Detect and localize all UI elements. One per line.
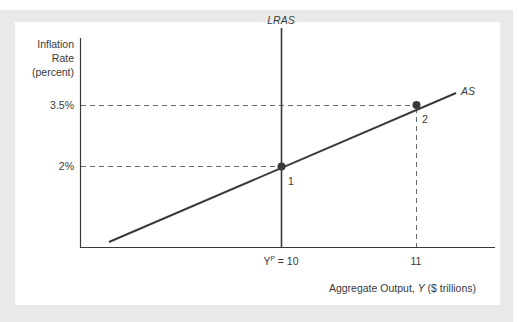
x-axis-label: Aggregate Output, Y ($ trillions) (329, 282, 476, 294)
as-lras-chart: Inflation Rate (percent) 3.5% 2% LRAS AS… (0, 0, 519, 322)
x-tick-yp-10: YP = 10 (263, 255, 298, 267)
x-tick-11: 11 (411, 255, 422, 267)
y-axis-label-line1: Inflation (37, 38, 74, 50)
as-label: AS (460, 85, 475, 97)
lras-label: LRAS (267, 14, 294, 26)
y-axis-label-line2: Rate (52, 52, 74, 64)
y-tick-2: 2% (59, 160, 74, 172)
point-1-marker (278, 163, 286, 171)
y-tick-3-5: 3.5% (50, 99, 74, 111)
point-2-label: 2 (422, 113, 428, 125)
y-axis-label-line3: (percent) (32, 66, 74, 78)
point-2-marker (413, 101, 421, 109)
point-1-label: 1 (288, 175, 294, 187)
